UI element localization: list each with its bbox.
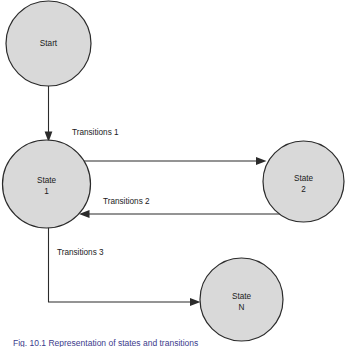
node-stateN-label-line1: State xyxy=(232,292,252,301)
node-stateN[interactable]: State N xyxy=(200,258,283,341)
edge-label-transitions-2: Transitions 2 xyxy=(103,197,150,206)
node-state2-label-line1: State xyxy=(294,174,314,183)
node-start[interactable]: Start xyxy=(6,1,91,86)
node-state1[interactable]: State 1 xyxy=(3,140,91,228)
diagram-canvas: Start State 1 State 2 State N Transition… xyxy=(0,0,346,347)
figure-caption: Fig. 10.1 Representation of states and t… xyxy=(13,338,333,347)
node-state2-label-line2: 2 xyxy=(301,185,306,194)
state-transition-diagram: Start State 1 State 2 State N Transition… xyxy=(0,0,346,347)
edge-transitions-1-arrowhead xyxy=(256,157,267,165)
edge-label-transitions-1: Transitions 1 xyxy=(72,128,119,137)
node-state1-label-line1: State xyxy=(37,176,57,185)
node-start-label: Start xyxy=(40,39,58,48)
edge-transitions-3-arrowhead xyxy=(190,298,201,306)
edge-transitions-2 xyxy=(79,210,281,218)
node-state2[interactable]: State 2 xyxy=(263,141,344,222)
edge-start-to-state1 xyxy=(45,86,53,142)
edge-transitions-1 xyxy=(84,157,267,165)
node-stateN-label-line2: N xyxy=(239,303,245,312)
edge-label-transitions-3: Transitions 3 xyxy=(57,248,104,257)
edge-transitions-3 xyxy=(49,227,201,306)
edge-transitions-3-line xyxy=(49,227,194,302)
node-state1-label-line2: 1 xyxy=(44,187,49,196)
